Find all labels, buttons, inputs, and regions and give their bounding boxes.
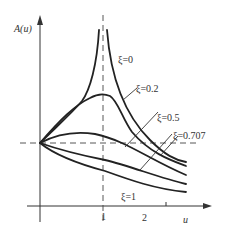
x-axis-arrow-icon bbox=[203, 203, 212, 209]
tick-label-2: 2 bbox=[142, 212, 147, 223]
x-axis-label: u bbox=[183, 214, 188, 225]
y-axis-label: A(u) bbox=[13, 23, 32, 35]
y-axis-arrow-icon bbox=[37, 15, 43, 25]
curve-group bbox=[40, 30, 186, 192]
leader-line bbox=[123, 88, 137, 100]
amplitude-frequency-chart: A(u) u 1 2 ξ=0 ξ=0.2 ξ=0.5 ξ=0.707 ξ=1 bbox=[0, 0, 229, 237]
leader-line-group bbox=[123, 88, 178, 170]
series-label-xi-0-2: ξ=0.2 bbox=[136, 83, 159, 95]
series-label-xi-0-707: ξ=0.707 bbox=[173, 130, 206, 142]
leader-line bbox=[140, 134, 172, 170]
series-curve bbox=[40, 133, 186, 175]
series-curve bbox=[40, 143, 186, 184]
series-label-xi-0: ξ=0 bbox=[118, 54, 133, 66]
tick-label-1: 1 bbox=[101, 211, 106, 222]
series-label-xi-1: ξ=1 bbox=[121, 191, 136, 203]
series-curve bbox=[40, 30, 99, 143]
series-label-xi-0-5: ξ=0.5 bbox=[157, 112, 180, 124]
